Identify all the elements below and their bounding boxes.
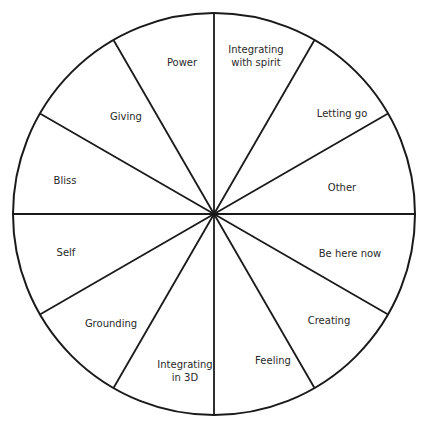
wheel-diagram: [0, 0, 426, 429]
segment-label-line: Grounding: [85, 317, 137, 330]
segment-label-line: Giving: [110, 110, 142, 123]
segment-label: Creating: [308, 314, 351, 327]
segment-label: Letting go: [317, 107, 368, 120]
segment-label: Integratingin 3D: [157, 358, 212, 384]
segment-label: Be here now: [319, 247, 382, 260]
segment-label: Self: [57, 246, 76, 259]
segment-label-line: Bliss: [54, 174, 77, 187]
segment-label-line: Creating: [308, 314, 351, 327]
segment-label-line: Feeling: [255, 354, 291, 367]
segment-label: Giving: [110, 110, 142, 123]
segment-label-line: in 3D: [157, 371, 212, 384]
segment-label: Bliss: [54, 174, 77, 187]
segment-label: Feeling: [255, 354, 291, 367]
segment-label-line: Integrating: [228, 43, 283, 56]
segment-label-line: Integrating: [157, 358, 212, 371]
segment-label-line: Self: [57, 246, 76, 259]
segment-label-line: Power: [167, 56, 197, 69]
segment-label-line: with spirit: [228, 56, 283, 69]
segment-label: Power: [167, 56, 197, 69]
segment-label-line: Be here now: [319, 247, 382, 260]
segment-label-line: Other: [328, 181, 356, 194]
segment-label: Integratingwith spirit: [228, 43, 283, 69]
segment-label: Other: [328, 181, 356, 194]
segment-label-line: Letting go: [317, 107, 368, 120]
segment-label: Grounding: [85, 317, 137, 330]
